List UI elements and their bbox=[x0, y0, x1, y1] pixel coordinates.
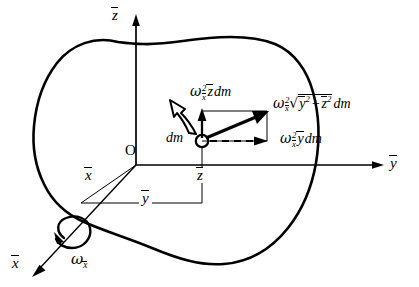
y-axis-label: y bbox=[390, 156, 397, 171]
resultant-force-arrowhead bbox=[252, 111, 269, 124]
mass-element-label: dm bbox=[166, 131, 183, 145]
vertical-force-label: ω2x z dm bbox=[190, 84, 231, 101]
inertia-force-diagram: z y x x O y z ωx ω2x z dm ω2x√y2 + z2 dm… bbox=[0, 0, 419, 287]
resultant-force-vector-line bbox=[206, 117, 256, 138]
x-axis-label-near-origin: x bbox=[85, 168, 92, 183]
resultant-force-label: ω2x√y2 + z2 dm bbox=[273, 95, 351, 113]
hollow-curved-arrow bbox=[170, 100, 196, 134]
rigid-body-outline bbox=[33, 37, 318, 264]
omega-x-label: ωx bbox=[71, 252, 87, 270]
diagram-canvas bbox=[0, 0, 419, 287]
y-dimension-label: y bbox=[139, 191, 152, 206]
z-dimension-label: z bbox=[196, 168, 204, 183]
x-axis-label: x bbox=[12, 256, 19, 271]
z-axis-arrowhead bbox=[132, 14, 140, 26]
vertical-force-arrowhead bbox=[198, 108, 207, 121]
z-axis-label: z bbox=[112, 8, 118, 23]
y-axis-arrowhead bbox=[372, 161, 384, 169]
origin-label: O bbox=[125, 143, 136, 158]
horizontal-force-label: ω2x y dm bbox=[280, 131, 322, 148]
x-axis-arrowhead bbox=[32, 265, 46, 277]
horizontal-force-arrowhead bbox=[254, 136, 268, 145]
